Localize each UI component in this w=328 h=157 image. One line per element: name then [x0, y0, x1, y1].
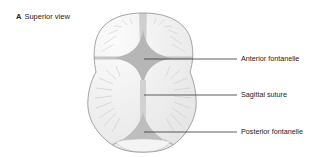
- label-anterior-fontanelle: Anterior fontanelle: [241, 55, 299, 62]
- label-posterior-fontanelle: Posterior fontanelle: [241, 128, 303, 135]
- label-sagittal-suture: Sagittal suture: [241, 91, 287, 98]
